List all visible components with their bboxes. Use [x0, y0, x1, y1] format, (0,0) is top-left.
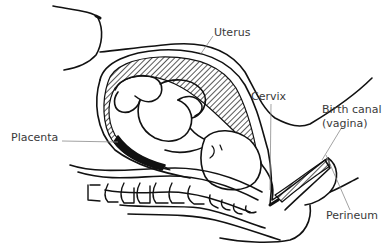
label-perineum: Perineum — [326, 209, 378, 222]
perineum-leader — [326, 155, 350, 210]
birth-canal-leader — [322, 127, 342, 160]
birth-anatomy-diagram: Uterus Cervix Birth canal (vagina) Place… — [0, 0, 389, 249]
breast-outline — [53, 6, 102, 70]
label-cervix: Cervix — [251, 90, 286, 103]
placenta-leader — [62, 141, 118, 142]
perineum-outline — [220, 205, 310, 242]
placenta-shape — [114, 136, 165, 170]
label-uterus: Uterus — [214, 26, 250, 39]
label-birth-canal: Birth canal — [322, 103, 381, 116]
label-placenta: Placenta — [11, 131, 58, 144]
label-birth-canal-sub: (vagina) — [322, 117, 368, 130]
